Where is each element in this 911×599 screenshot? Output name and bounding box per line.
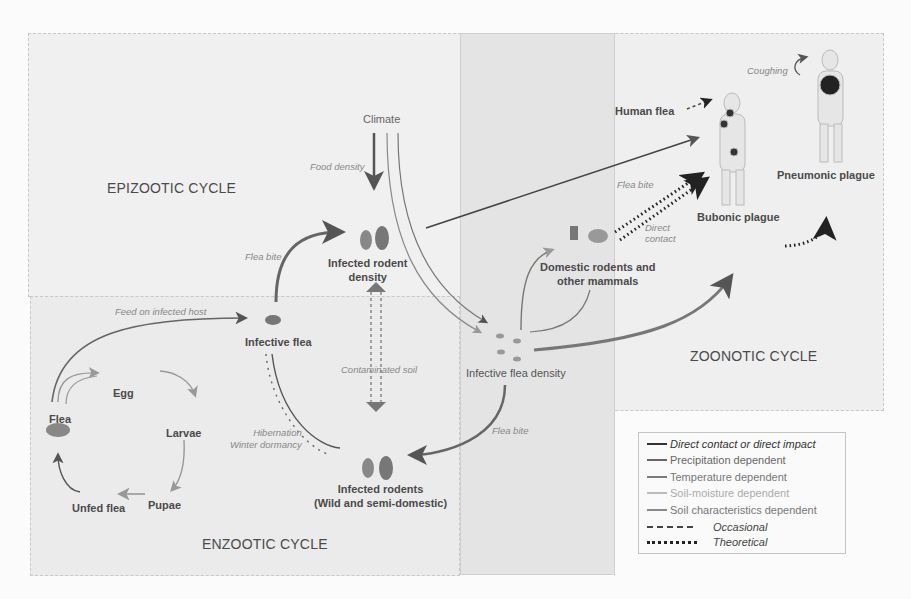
legend-item-soil-moisture: Soil-moisture dependent bbox=[647, 487, 789, 499]
enzootic-cycle-label: ENZOOTIC CYCLE bbox=[202, 536, 328, 552]
pneumonic-plague-label: Pneumonic plague bbox=[777, 168, 875, 182]
dotted-line-icon bbox=[647, 541, 697, 544]
feed-on-infected-host-label: Feed on infected host bbox=[115, 306, 206, 317]
legend-item-temperature: Temperature dependent bbox=[647, 471, 787, 483]
domestic-animals-icon bbox=[570, 226, 608, 243]
epizootic-cycle-label: EPIZOOTIC CYCLE bbox=[107, 180, 236, 196]
contaminated-soil-label: Contaminated soil bbox=[341, 364, 417, 375]
legend-item-direct: Direct contact or direct impact bbox=[647, 438, 816, 450]
flea-bite-bottom-label: Flea bite bbox=[492, 425, 528, 436]
fleas-icon bbox=[496, 334, 521, 362]
rodent-icon bbox=[360, 226, 389, 250]
lifecycle-unfed-flea-label: Unfed flea bbox=[72, 501, 125, 515]
flea-bite-label: Flea bite bbox=[245, 251, 281, 262]
rodent-icon bbox=[362, 456, 393, 480]
hibernation-label: HibernationWinter dormancy bbox=[230, 427, 302, 451]
infective-flea-density-label: Infective flea density bbox=[466, 366, 566, 380]
direct-contact-label: Directcontact bbox=[645, 222, 676, 244]
solid-line-icon bbox=[647, 492, 667, 494]
flea-bite-zoonotic-label: Flea bite bbox=[617, 179, 653, 190]
climate-label: Climate bbox=[363, 113, 400, 125]
legend-item-occasional: Occasional bbox=[647, 521, 767, 533]
legend-item-theoretical: Theoretical bbox=[647, 536, 767, 548]
infective-flea-label: Infective flea bbox=[245, 335, 312, 349]
lifecycle-flea-label: Flea bbox=[49, 412, 71, 426]
solid-line-icon bbox=[647, 459, 667, 461]
lifecycle-larvae-label: Larvae bbox=[166, 426, 201, 440]
legend-item-precipitation: Precipitation dependent bbox=[647, 454, 786, 466]
human-figure-icon bbox=[818, 50, 843, 162]
solid-line-icon bbox=[647, 476, 667, 478]
solid-line-icon bbox=[647, 509, 667, 511]
zoonotic-cycle-label: ZOONOTIC CYCLE bbox=[690, 348, 817, 364]
domestic-rodents-label: Domestic rodents andother mammals bbox=[540, 260, 656, 288]
lifecycle-pupae-label: Pupae bbox=[148, 498, 181, 512]
coughing-label: Coughing bbox=[747, 65, 788, 76]
solid-line-icon bbox=[647, 443, 667, 445]
human-figure-icon bbox=[720, 93, 745, 205]
infected-rodent-density-label: Infected rodentdensity bbox=[328, 256, 407, 284]
infected-rodents-label: Infected rodents(Wild and semi-domestic) bbox=[314, 482, 447, 510]
food-density-label: Food density bbox=[310, 161, 364, 172]
lifecycle-egg-label: Egg bbox=[113, 386, 134, 400]
legend: Direct contact or direct impact Precipit… bbox=[638, 432, 846, 554]
human-flea-label: Human flea bbox=[615, 104, 674, 118]
legend-item-soil-characteristics: Soil characteristics dependent bbox=[647, 504, 817, 516]
dashed-line-icon bbox=[647, 526, 693, 528]
bubonic-plague-label: Bubonic plague bbox=[697, 210, 780, 224]
flea-icon bbox=[265, 315, 281, 325]
